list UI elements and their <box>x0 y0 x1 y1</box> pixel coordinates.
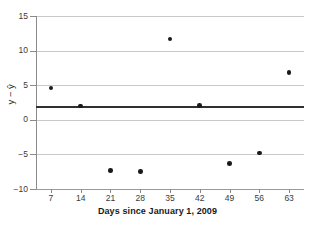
data-point <box>78 104 83 109</box>
x-tick-label-28: 28 <box>135 194 144 203</box>
data-point <box>287 70 292 75</box>
residual-plot-figure: −10−5051015 71421283542495663 Days since… <box>0 0 315 227</box>
x-tick-label-35: 35 <box>165 194 174 203</box>
y-tick-label--5: −5 <box>0 150 28 159</box>
data-point <box>227 161 232 166</box>
x-tick-label-49: 49 <box>225 194 234 203</box>
y-axis-title: y − ŷ <box>5 91 16 105</box>
x-tick-label-56: 56 <box>255 194 264 203</box>
data-point <box>49 86 54 91</box>
y-tick-label-10: 10 <box>0 46 28 55</box>
data-point <box>108 168 113 173</box>
y-tick--10 <box>30 189 36 190</box>
y-tick-label-15: 15 <box>0 12 28 21</box>
data-point <box>197 103 202 108</box>
y-tick-label-0: 0 <box>0 115 28 124</box>
x-tick-label-42: 42 <box>195 194 204 203</box>
plot-area <box>36 16 304 189</box>
data-point <box>257 151 262 156</box>
x-tick-label-7: 7 <box>49 194 54 203</box>
x-tick-label-14: 14 <box>76 194 85 203</box>
x-tick-label-63: 63 <box>284 194 293 203</box>
x-tick-label-21: 21 <box>106 194 115 203</box>
data-point <box>168 37 173 42</box>
y-tick-label--10: −10 <box>0 185 28 194</box>
mean-residual-reference-line <box>36 106 304 108</box>
data-point <box>138 169 143 174</box>
x-axis-title: Days since January 1, 2009 <box>0 206 315 216</box>
